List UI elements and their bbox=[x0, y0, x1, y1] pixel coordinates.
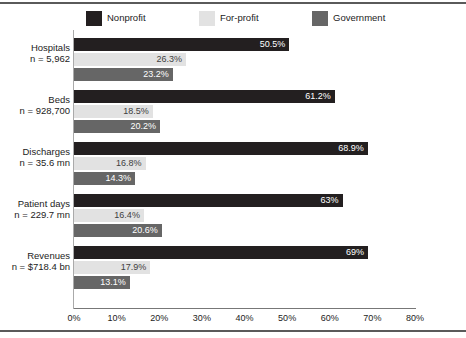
legend-swatch-icon bbox=[312, 11, 328, 26]
category-label-count: n = 35.6 mn bbox=[0, 157, 70, 168]
chart-figure: NonprofitFor-profitGovernment Hospitalsn… bbox=[0, 0, 466, 338]
bar-group: 69%17.9%13.1% bbox=[74, 246, 415, 291]
x-axis-tick-label: 40% bbox=[235, 313, 253, 323]
bar-value-label: 68.9% bbox=[74, 142, 368, 155]
category-label: Dischargesn = 35.6 mn bbox=[0, 146, 70, 168]
category-label: Hospitalsn = 5,962 bbox=[0, 42, 70, 64]
category-label: Bedsn = 928,700 bbox=[0, 94, 70, 116]
bar-value-label: 26.3% bbox=[74, 53, 186, 66]
bar-value-label: 61.2% bbox=[74, 90, 335, 103]
x-axis-tick-label: 20% bbox=[150, 313, 168, 323]
category-label-count: n = 928,700 bbox=[0, 105, 70, 116]
bar-value-label: 23.2% bbox=[74, 68, 173, 81]
legend-item-government[interactable]: Government bbox=[312, 10, 385, 26]
category-label-name: Beds bbox=[48, 94, 70, 105]
bar-value-label: 50.5% bbox=[74, 38, 289, 51]
x-axis-tick-labels: 0%10%20%30%40%50%60%70%80% bbox=[0, 313, 466, 327]
bar-group: 50.5%26.3%23.2% bbox=[74, 38, 415, 83]
plot-area: 50.5%26.3%23.2%61.2%18.5%20.2%68.9%16.8%… bbox=[74, 30, 415, 308]
legend-item-nonprofit[interactable]: Nonprofit bbox=[86, 10, 146, 26]
category-label-count: n = $718.4 bn bbox=[0, 261, 70, 272]
category-label-name: Patient days bbox=[18, 198, 70, 209]
category-label-name: Discharges bbox=[22, 146, 70, 157]
category-label-name: Revenues bbox=[27, 250, 70, 261]
legend-item-label: Government bbox=[333, 10, 385, 26]
bar-value-label: 18.5% bbox=[74, 105, 153, 118]
bar-value-label: 16.4% bbox=[74, 209, 144, 222]
bar-value-label: 17.9% bbox=[74, 261, 150, 274]
chart-legend: NonprofitFor-profitGovernment bbox=[86, 10, 386, 26]
bar-value-label: 16.8% bbox=[74, 157, 146, 170]
category-label: Patient daysn = 229.7 mn bbox=[0, 198, 70, 220]
x-axis-tick-label: 60% bbox=[321, 313, 339, 323]
bar-group: 68.9%16.8%14.3% bbox=[74, 142, 415, 187]
category-label-name: Hospitals bbox=[31, 42, 70, 53]
category-label-count: n = 229.7 mn bbox=[0, 209, 70, 220]
x-axis-line bbox=[74, 308, 416, 309]
top-divider-rule bbox=[0, 2, 466, 4]
legend-swatch-icon bbox=[199, 11, 215, 26]
category-label-count: n = 5,962 bbox=[0, 53, 70, 64]
bar-value-label: 63% bbox=[74, 194, 343, 207]
legend-swatch-icon bbox=[86, 11, 102, 26]
category-label: Revenuesn = $718.4 bn bbox=[0, 250, 70, 272]
bottom-divider-rule bbox=[0, 330, 466, 332]
x-axis-tick-label: 50% bbox=[278, 313, 296, 323]
category-axis-labels: Hospitalsn = 5,962Bedsn = 928,700Dischar… bbox=[0, 30, 70, 308]
x-axis-tick-label: 0% bbox=[67, 313, 80, 323]
legend-item-label: Nonprofit bbox=[107, 10, 146, 26]
bar-value-label: 14.3% bbox=[74, 172, 135, 185]
bar-value-label: 69% bbox=[74, 246, 368, 259]
x-axis-tick-label: 70% bbox=[363, 313, 381, 323]
x-axis-tick-label: 80% bbox=[406, 313, 424, 323]
bar-value-label: 20.6% bbox=[74, 224, 162, 237]
legend-item-label: For-profit bbox=[220, 10, 259, 26]
legend-item-for-profit[interactable]: For-profit bbox=[199, 10, 259, 26]
bar-group: 61.2%18.5%20.2% bbox=[74, 90, 415, 135]
bar-value-label: 13.1% bbox=[74, 276, 130, 289]
bar-group: 63%16.4%20.6% bbox=[74, 194, 415, 239]
x-axis-tick-label: 30% bbox=[193, 313, 211, 323]
x-axis-tick-label: 10% bbox=[108, 313, 126, 323]
bar-value-label: 20.2% bbox=[74, 120, 160, 133]
